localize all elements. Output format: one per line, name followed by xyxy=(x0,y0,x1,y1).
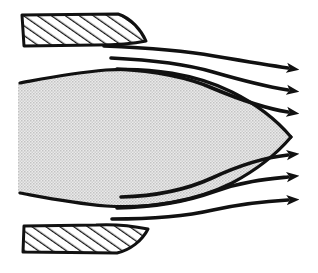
flow-diagram-canvas xyxy=(0,0,318,273)
flow-diagram-figure xyxy=(0,0,318,273)
